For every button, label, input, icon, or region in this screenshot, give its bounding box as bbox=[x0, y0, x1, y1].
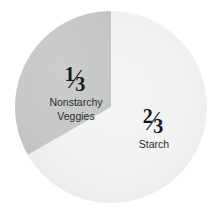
fraction-two-thirds: 2⁄3 bbox=[143, 106, 166, 133]
fraction-one-third: 1⁄3 bbox=[65, 64, 88, 91]
label-starch: 2⁄3 Starch bbox=[104, 106, 204, 151]
fraction-denominator: 3 bbox=[75, 73, 85, 95]
slice-name-line1: Starch bbox=[104, 138, 204, 151]
fraction-denominator: 3 bbox=[153, 115, 163, 137]
pie-chart: 1⁄3 Nonstarchy Veggies 2⁄3 Starch bbox=[0, 0, 212, 217]
